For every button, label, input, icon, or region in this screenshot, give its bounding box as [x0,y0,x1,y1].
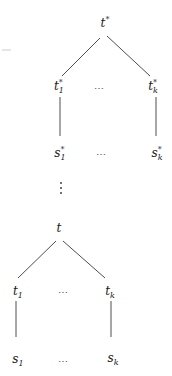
ellipsis-lower-children: ⋯ [58,287,69,298]
tree-diagram: t* t*1 ⋯ t*k s*1 ⋯ s*k t t1 ⋯ tk s1 ⋯ sk [0,0,172,376]
edge-t-tk [63,241,105,278]
node-sub: 1 [61,154,66,162]
node-tk-star: t*k [148,78,158,94]
node-s1: s1 [12,353,23,365]
node-sk: sk [107,352,118,364]
node-sub: 1 [19,359,24,368]
node-sub: k [114,358,119,367]
edge-tstar-t1star [62,38,100,76]
edges-layer [0,0,172,376]
node-s1-star: s*1 [54,145,65,161]
edge-tstar-tkstar [107,36,150,76]
node-sup: * [105,15,109,24]
node-sk-star: s*k [151,145,162,161]
vertical-ellipsis [59,182,63,198]
node-t1-star: t*1 [54,78,64,94]
node-t: t [57,222,62,234]
node-base: t [57,221,62,235]
ellipsis-upper-children: ⋯ [94,83,105,94]
dot [60,182,62,184]
edge-t-t1 [18,241,56,278]
dot [60,192,62,194]
node-sub: k [158,154,163,162]
node-t1: t1 [13,285,23,297]
node-sub: 1 [59,87,64,95]
node-t-star: t* [101,17,110,29]
ellipsis-lower-leaves: ⋯ [58,356,69,367]
node-sub: 1 [18,291,23,300]
dot [60,187,62,189]
ellipsis-upper-leaves: ⋯ [96,149,107,160]
node-sub: k [110,291,115,300]
node-tk: tk [105,285,115,297]
node-sub: k [153,87,158,95]
